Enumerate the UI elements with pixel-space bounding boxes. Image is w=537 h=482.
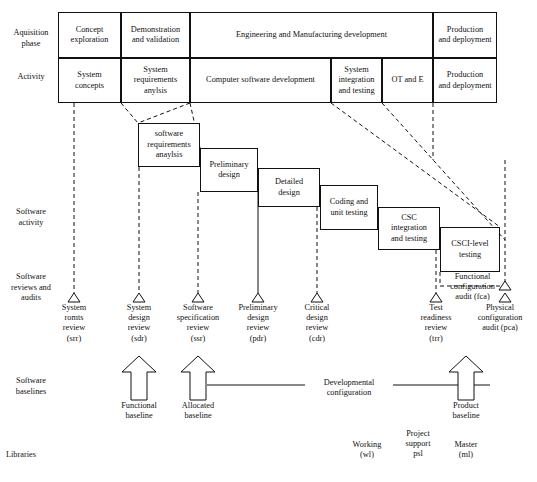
triangle-srr	[68, 293, 80, 302]
triangle-pdr	[252, 293, 264, 302]
triangle-pca	[499, 293, 511, 302]
triangle-trr	[430, 293, 442, 302]
triangle-cdr	[311, 293, 323, 302]
review-markers-layer	[0, 0, 537, 482]
diagram-canvas: Aquisitionphase Activity Softwareactivit…	[0, 0, 537, 482]
triangle-fca	[499, 281, 511, 290]
triangle-ssr	[192, 293, 204, 302]
triangle-sdr	[133, 293, 145, 302]
